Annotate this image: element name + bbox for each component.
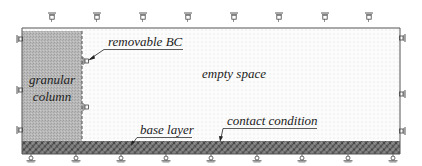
roller-support-icon [298, 154, 307, 162]
roller-support-icon [184, 13, 192, 22]
roller-support-icon [253, 154, 262, 162]
roller-support-icon [72, 154, 81, 162]
roller-support-icon [117, 154, 126, 162]
roller-support-icon [139, 13, 147, 22]
roller-support-icon [230, 13, 238, 22]
granular-column-label-line2: column [33, 89, 71, 104]
roller-support-icon [321, 13, 329, 22]
granular-column-model-diagram: removable BC granular column empty space… [0, 0, 422, 166]
roller-support-icon [48, 13, 56, 22]
bottom-supports [27, 154, 398, 162]
base-layer-label: base layer [140, 122, 195, 137]
roller-support-icon [162, 154, 171, 162]
removable-bc-label: removable BC [108, 34, 183, 49]
empty-space-label: empty space [202, 66, 266, 81]
contact-condition-label: contact condition [227, 113, 318, 128]
base-layer-region [22, 141, 400, 154]
roller-support-icon [93, 13, 101, 22]
roller-support-icon [344, 154, 353, 162]
granular-column-label: granular [29, 72, 76, 87]
roller-support-icon [389, 154, 398, 162]
roller-support-icon [27, 154, 36, 162]
roller-support-icon [275, 13, 283, 22]
roller-support-icon [365, 13, 373, 22]
roller-support-icon [207, 154, 216, 162]
top-supports [48, 13, 373, 22]
